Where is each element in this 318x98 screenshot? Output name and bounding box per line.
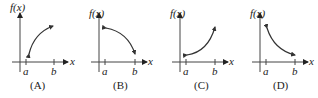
x-axis-label: x [228, 55, 234, 67]
graph-c-plot: f(x) x a b (C) [158, 0, 238, 98]
a-label: a [183, 65, 189, 77]
graph-d-plot: f(x) x a b (D) [236, 0, 318, 98]
graph-panel-b: f(x) x a b (B) [78, 0, 158, 98]
b-label: b [132, 65, 138, 77]
y-axis-label: f(x) [170, 7, 186, 20]
b-label: b [212, 65, 218, 77]
x-axis-label: x [147, 55, 153, 67]
a-label: a [102, 65, 108, 77]
graph-panel-c: f(x) x a b (C) [158, 0, 238, 98]
y-axis-label: f(x) [89, 7, 105, 20]
graph-panel-a: f(x) x a b (A) [0, 0, 80, 98]
y-axis-label: f(x) [10, 1, 26, 14]
graph-a-plot: f(x) x a b (A) [0, 0, 80, 98]
x-axis-label: x [69, 55, 75, 67]
x-axis-label: x [308, 55, 314, 67]
a-label: a [23, 65, 29, 77]
curve [267, 28, 295, 55]
caption: (D) [273, 79, 289, 92]
caption: (B) [113, 79, 128, 92]
graph-b-plot: f(x) x a b (B) [78, 0, 158, 98]
a-label: a [263, 65, 269, 77]
graph-panel-d: f(x) x a b (D) [236, 0, 318, 98]
curve [187, 27, 215, 55]
curve [29, 26, 53, 54]
y-axis-label: f(x) [250, 7, 266, 20]
caption: (C) [194, 79, 209, 92]
caption: (A) [30, 79, 46, 92]
b-label: b [51, 65, 57, 77]
b-label: b [292, 65, 298, 77]
curve [106, 28, 135, 54]
